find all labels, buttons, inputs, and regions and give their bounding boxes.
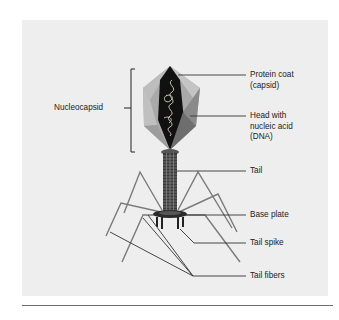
label-tail-fibers: Tail fibers [250, 271, 285, 282]
label-protein-coat: Protein coat (capsid) [250, 70, 294, 91]
tail-spikes [157, 217, 183, 229]
capsid-head [143, 66, 200, 150]
nucleocapsid-bracket [124, 69, 135, 152]
label-nucleocapsid: Nucleocapsid [54, 103, 103, 114]
horizontal-divider [22, 305, 333, 306]
bacteriophage-illustration [0, 0, 339, 320]
label-head-nucleic-acid: Head with nucleic acid (DNA) [250, 111, 293, 143]
base-plate [153, 210, 187, 218]
tail-sheath [163, 153, 177, 213]
label-tail-spike: Tail spike [250, 238, 284, 249]
label-base-plate: Base plate [250, 210, 289, 221]
label-tail: Tail [250, 166, 262, 177]
